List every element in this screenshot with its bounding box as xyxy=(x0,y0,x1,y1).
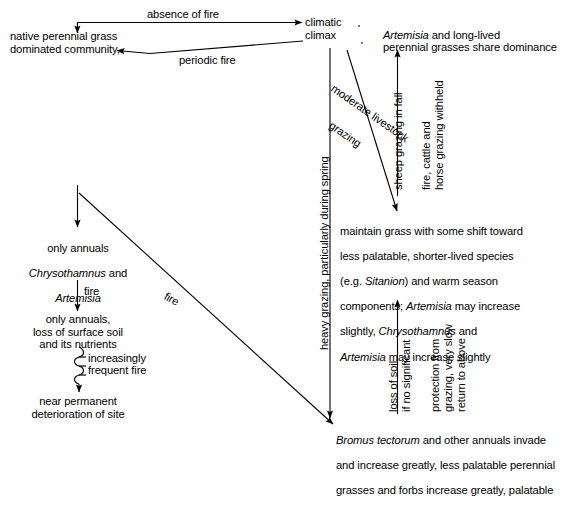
edge-frequent-fire-squiggle xyxy=(75,347,84,384)
node-near-permanent-deterioration: near permanent deterioration of site xyxy=(2,395,154,420)
label-protection-from-grazing-line3: return to above xyxy=(443,292,468,412)
scan-artifact-dot xyxy=(361,42,363,44)
label-moderate-livestock-grazing-line2: grazing xyxy=(327,119,364,150)
label-fire-diagonal: fire xyxy=(162,290,181,308)
label-if-no-significant-loss-line2: loss of soil xyxy=(375,292,400,412)
scan-artifact-dot xyxy=(358,25,360,27)
node-only-annuals-soil-loss: only annuals, loss of surface soil and i… xyxy=(2,313,154,351)
label-sheep-grazing-fall: sheep grazing in fall xyxy=(392,40,404,190)
node-only-annuals-chrysothamnus: only annuals Chrysothamnus and Artemisia xyxy=(2,229,154,305)
edge-fire-diagonal xyxy=(79,193,333,424)
node-native-perennial-grass-community: native perennial grass dominated communi… xyxy=(10,30,170,55)
label-fire-short: fire xyxy=(84,285,99,297)
label-increasingly-frequent-fire: increasingly frequent fire xyxy=(88,352,146,377)
label-absence-of-fire: absence of fire xyxy=(147,8,219,20)
label-heavy-grazing-spring: heavy grazing, particularly during sprin… xyxy=(318,90,330,350)
node-climatic-climax: climatic climax xyxy=(305,16,357,41)
edge-periodic-fire-upper xyxy=(150,41,303,54)
label-grazing-withheld-line2: horse grazing withheld xyxy=(421,40,446,190)
node-bromus-invasion: Bromus tectorum and other annuals invade… xyxy=(336,421,576,505)
label-periodic-fire: periodic fire xyxy=(179,54,236,66)
diagram-canvas: native perennial grass dominated communi… xyxy=(0,0,576,505)
